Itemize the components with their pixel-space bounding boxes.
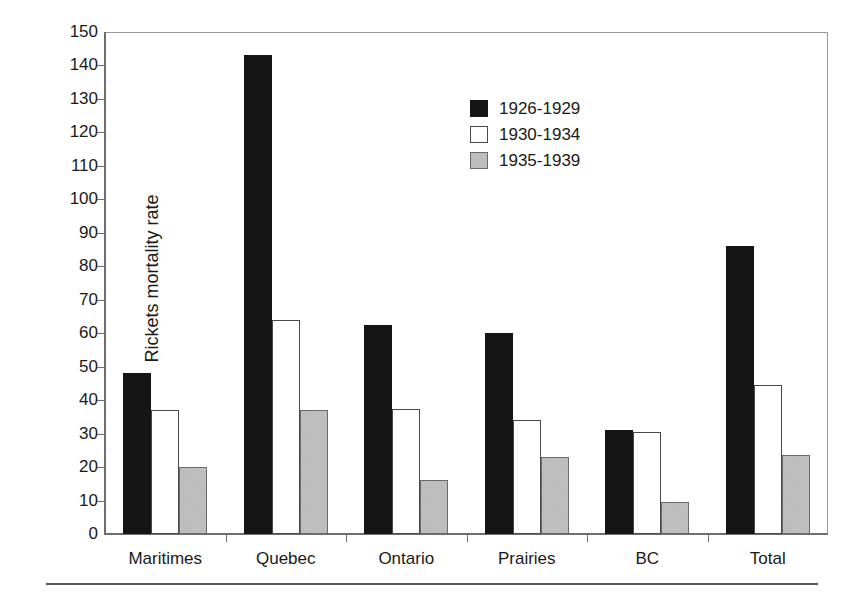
x-axis-tick-mark bbox=[467, 534, 468, 542]
y-axis-tick-mark bbox=[97, 65, 105, 66]
y-axis-tick-label: 90 bbox=[56, 224, 98, 241]
y-axis-tick-label: 100 bbox=[56, 190, 98, 207]
y-axis-tick-mark bbox=[97, 333, 105, 334]
y-axis-tick-mark bbox=[97, 132, 105, 133]
x-axis-tick-mark bbox=[346, 534, 347, 542]
y-axis-tick-mark bbox=[97, 367, 105, 368]
y-axis-tick-mark bbox=[97, 400, 105, 401]
y-axis-tick-label: 40 bbox=[56, 391, 98, 408]
legend-swatch-icon bbox=[470, 126, 488, 143]
y-axis-tick-label: 140 bbox=[56, 56, 98, 73]
bar-group bbox=[123, 32, 207, 534]
bar bbox=[726, 246, 754, 534]
x-axis-category-label: BC bbox=[587, 549, 708, 569]
y-axis-tick-label: 110 bbox=[56, 157, 98, 174]
x-axis-tick-mark bbox=[708, 534, 709, 542]
bar bbox=[541, 457, 569, 534]
bar bbox=[513, 420, 541, 534]
x-axis-tick-mark bbox=[226, 534, 227, 542]
legend: 1926-19291930-19341935-1939 bbox=[470, 97, 580, 175]
x-axis-category-label: Maritimes bbox=[105, 549, 226, 569]
y-axis-tick-mark bbox=[97, 300, 105, 301]
figure-bar-chart: 0102030405060708090100110120130140150 Ri… bbox=[0, 0, 849, 601]
bar bbox=[272, 320, 300, 534]
bar bbox=[364, 325, 392, 534]
footer-divider bbox=[46, 583, 818, 585]
bar-group bbox=[364, 32, 448, 534]
y-axis-tick-label: 10 bbox=[56, 492, 98, 509]
x-axis-category-label: Prairies bbox=[467, 549, 588, 569]
legend-item: 1930-1934 bbox=[470, 123, 580, 145]
bar bbox=[244, 55, 272, 534]
y-axis-tick-label: 20 bbox=[56, 458, 98, 475]
y-axis-tick-label: 150 bbox=[56, 23, 98, 40]
legend-label: 1935-1939 bbox=[499, 152, 580, 169]
x-axis-category-label: Total bbox=[708, 549, 829, 569]
bar bbox=[782, 455, 810, 534]
bar bbox=[300, 410, 328, 534]
y-axis-tick-mark bbox=[97, 501, 105, 502]
x-axis-category-label: Ontario bbox=[346, 549, 467, 569]
y-axis-tick-label: 80 bbox=[56, 257, 98, 274]
y-axis-tick-label: 120 bbox=[56, 123, 98, 140]
legend-item: 1935-1939 bbox=[470, 149, 580, 171]
legend-label: 1930-1934 bbox=[499, 126, 580, 143]
y-axis-tick-mark bbox=[97, 99, 105, 100]
y-axis-tick-labels: 0102030405060708090100110120130140150 bbox=[42, 0, 98, 601]
bar bbox=[754, 385, 782, 534]
y-axis-tick-label: 50 bbox=[56, 358, 98, 375]
bar bbox=[633, 432, 661, 534]
legend-label: 1926-1929 bbox=[499, 100, 580, 117]
legend-item: 1926-1929 bbox=[470, 97, 580, 119]
legend-swatch-icon bbox=[470, 100, 488, 117]
y-axis-tick-label: 30 bbox=[56, 425, 98, 442]
bar bbox=[485, 333, 513, 534]
x-axis-tick-mark bbox=[587, 534, 588, 542]
bar bbox=[179, 467, 207, 534]
bar bbox=[661, 502, 689, 534]
legend-swatch-icon bbox=[470, 152, 488, 169]
y-axis-tick-mark bbox=[97, 467, 105, 468]
bar bbox=[123, 373, 151, 534]
y-axis-tick-mark bbox=[97, 434, 105, 435]
y-axis-tick-label: 70 bbox=[56, 291, 98, 308]
bar-group bbox=[726, 32, 810, 534]
y-axis-tick-mark bbox=[97, 166, 105, 167]
y-axis-tick-label: 0 bbox=[56, 525, 98, 542]
bar-group bbox=[244, 32, 328, 534]
y-axis-tick-mark bbox=[97, 233, 105, 234]
bar bbox=[605, 430, 633, 534]
y-axis-tick-mark bbox=[97, 199, 105, 200]
x-axis-category-label: Quebec bbox=[226, 549, 347, 569]
y-axis-tick-mark bbox=[97, 266, 105, 267]
bar bbox=[420, 480, 448, 534]
y-axis-tick-label: 130 bbox=[56, 90, 98, 107]
bar bbox=[151, 410, 179, 534]
y-axis-tick-label: 60 bbox=[56, 324, 98, 341]
bar-group bbox=[605, 32, 689, 534]
bars-layer bbox=[105, 32, 828, 534]
bar bbox=[392, 409, 420, 535]
